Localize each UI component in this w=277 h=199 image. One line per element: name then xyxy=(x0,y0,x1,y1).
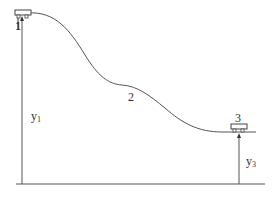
height-label-y3: y3 xyxy=(246,155,256,169)
height-label-y1: y1 xyxy=(31,110,41,124)
point-label-3: 3 xyxy=(235,112,241,124)
height-subscript: 1 xyxy=(37,115,41,124)
track-diagram xyxy=(0,0,277,199)
arrow-up-icon xyxy=(237,133,241,138)
cart-icon-point-3 xyxy=(231,124,247,132)
point-label-2: 2 xyxy=(128,91,134,103)
cart-icon-point-1 xyxy=(15,10,31,18)
track-curve xyxy=(28,13,256,132)
point-label-1: 1 xyxy=(15,20,21,32)
height-subscript: 3 xyxy=(252,160,256,169)
